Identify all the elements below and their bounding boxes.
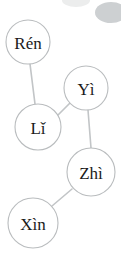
node-li-label: Lǐ <box>30 119 46 138</box>
node-xin[interactable]: Xìn <box>8 198 58 248</box>
edge-ren-li <box>30 64 35 104</box>
edge-yi-zhi <box>88 110 91 148</box>
node-link-graph: Rén Yì Lǐ Zhì Xìn <box>0 0 121 255</box>
node-zhi[interactable]: Zhì <box>67 148 115 196</box>
node-yi-label: Yì <box>78 80 95 99</box>
edge-zhi-xin <box>52 189 72 206</box>
node-li[interactable]: Lǐ <box>15 104 61 150</box>
node-yi[interactable]: Yì <box>64 66 108 110</box>
node-ren-label: Rén <box>14 34 42 53</box>
node-xin-label: Xìn <box>20 215 46 234</box>
node-ren[interactable]: Rén <box>6 20 50 64</box>
node-zhi-label: Zhì <box>79 164 103 183</box>
diagram-canvas: Rén Yì Lǐ Zhì Xìn <box>0 0 121 255</box>
edge-li-yi <box>57 103 70 116</box>
